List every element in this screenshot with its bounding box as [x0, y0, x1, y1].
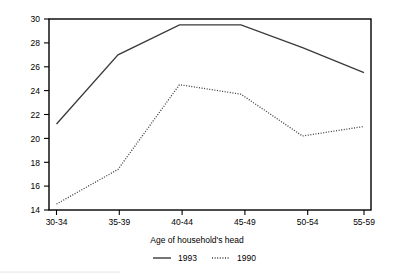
x-tick-label: 35-39 — [108, 217, 130, 227]
x-axis-title: Age of household's head — [150, 235, 244, 245]
x-tick-label: 50-54 — [297, 217, 319, 227]
line-chart-figure: 30 28 26 24 22 20 18 16 14 30-34 35-39 4… — [0, 0, 394, 275]
legend-label-1990: 1990 — [237, 253, 256, 263]
y-axis-labels: 30 28 26 24 22 20 18 16 14 — [31, 14, 41, 215]
y-tick-label: 20 — [31, 134, 41, 144]
y-tick-label: 22 — [31, 110, 41, 120]
scan-edge-artifact — [0, 272, 120, 273]
chart-background — [0, 0, 394, 275]
x-tick-label: 40-44 — [171, 217, 193, 227]
y-tick-label: 30 — [31, 14, 41, 24]
y-tick-label: 18 — [31, 158, 41, 168]
legend-label-1993: 1993 — [178, 253, 197, 263]
y-tick-label: 16 — [31, 181, 41, 191]
y-tick-label: 28 — [31, 38, 41, 48]
x-tick-label: 55-59 — [353, 217, 375, 227]
y-tick-label: 26 — [31, 62, 41, 72]
chart-svg: 30 28 26 24 22 20 18 16 14 30-34 35-39 4… — [0, 0, 394, 275]
x-tick-label: 30-34 — [46, 217, 68, 227]
y-tick-label: 24 — [31, 86, 41, 96]
y-tick-label: 14 — [31, 205, 41, 215]
x-tick-label: 45-49 — [234, 217, 256, 227]
